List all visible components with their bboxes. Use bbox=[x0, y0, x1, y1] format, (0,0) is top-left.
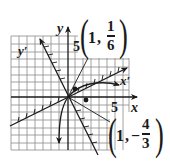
point-2-y-fraction: 4 3 bbox=[142, 117, 150, 151]
paren-close: ) bbox=[119, 14, 128, 58]
point-1-marker bbox=[73, 87, 78, 92]
point-1-y-fraction: 1 6 bbox=[107, 19, 115, 53]
point-2-comma: , bbox=[125, 128, 129, 144]
point-2-marker bbox=[84, 98, 89, 103]
point-1-y-denominator: 6 bbox=[107, 38, 115, 53]
asymptote-line-2 bbox=[68, 97, 110, 122]
point-1-x: 1 bbox=[88, 30, 96, 46]
point-1-y-numerator: 1 bbox=[107, 19, 115, 34]
point-2-y-numerator: 4 bbox=[142, 117, 150, 132]
y-tick-5: 5 bbox=[73, 40, 80, 54]
x-axis-label: x bbox=[131, 101, 138, 115]
point-1-comma: , bbox=[97, 30, 101, 46]
y-prime-label: y′ bbox=[18, 44, 27, 57]
point-2-y-sign: − bbox=[131, 128, 140, 144]
x-prime-label: x′ bbox=[120, 74, 130, 87]
point-2-x: 1 bbox=[116, 128, 124, 144]
point-2-y-denominator: 3 bbox=[142, 136, 150, 151]
paren-close: ) bbox=[155, 113, 164, 157]
y-axis-label: y bbox=[57, 22, 63, 36]
